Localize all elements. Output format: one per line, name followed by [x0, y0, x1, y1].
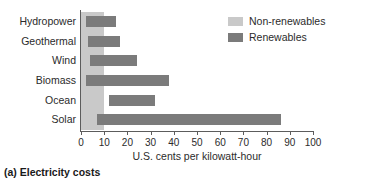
x-tick-label: 20: [122, 137, 133, 148]
y-axis-tick-label: Ocean: [0, 95, 76, 106]
x-tick-label: 40: [168, 137, 179, 148]
bar-row: [81, 110, 313, 130]
figure-electricity-costs: HydropowerGeothermalWindBiomassOceanSola…: [0, 0, 366, 187]
x-tick-mark: [267, 131, 268, 135]
y-axis-tick-label: Hydropower: [0, 16, 76, 27]
bar-renewables: [109, 95, 155, 106]
y-axis-tick-label: Geothermal: [0, 36, 76, 47]
x-tick-label: 0: [78, 137, 84, 148]
x-tick-label: 70: [238, 137, 249, 148]
x-tick-label: 90: [284, 137, 295, 148]
x-tick-mark: [174, 131, 175, 135]
legend-swatch-non-renewables: [228, 17, 243, 26]
y-axis-tick-label: Biomass: [0, 75, 76, 86]
x-tick-label: 50: [191, 137, 202, 148]
y-axis-tick-label: Wind: [0, 55, 76, 66]
legend-item-renewables: Renewables: [228, 30, 325, 44]
x-tick-mark: [127, 131, 128, 135]
y-axis-category-labels: HydropowerGeothermalWindBiomassOceanSola…: [0, 12, 76, 130]
x-axis-title: U.S. cents per kilowatt-hour: [81, 150, 313, 162]
x-tick-mark: [104, 131, 105, 135]
bar-renewables: [86, 75, 170, 86]
x-tick-mark: [81, 131, 82, 135]
x-tick-mark: [290, 131, 291, 135]
x-tick-mark: [197, 131, 198, 135]
bar-row: [81, 71, 313, 91]
x-tick-label: 80: [261, 137, 272, 148]
x-tick-mark: [313, 131, 314, 135]
x-tick-label: 30: [145, 137, 156, 148]
bar-renewables: [88, 36, 120, 47]
figure-caption: (a) Electricity costs: [4, 166, 100, 178]
legend-label: Renewables: [249, 32, 307, 43]
bar-renewables: [97, 114, 280, 125]
legend-label: Non-renewables: [249, 16, 325, 27]
bar-row: [81, 51, 313, 71]
bar-row: [81, 91, 313, 111]
bar-renewables: [86, 16, 116, 27]
x-tick-label: 60: [215, 137, 226, 148]
chart-legend: Non-renewablesRenewables: [228, 14, 325, 46]
x-tick-mark: [220, 131, 221, 135]
x-tick-mark: [243, 131, 244, 135]
bar-renewables: [90, 55, 136, 66]
x-tick-label: 100: [305, 137, 322, 148]
y-axis-tick-label: Solar: [0, 114, 76, 125]
legend-swatch-renewables: [228, 33, 243, 42]
legend-item-non-renewables: Non-renewables: [228, 14, 325, 28]
x-tick-label: 10: [99, 137, 110, 148]
x-tick-mark: [151, 131, 152, 135]
